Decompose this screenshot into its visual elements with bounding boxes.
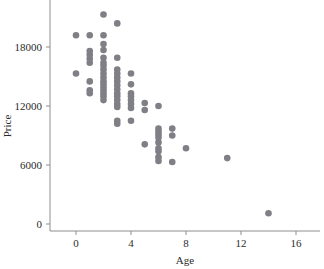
data-point — [86, 59, 93, 66]
data-point — [169, 132, 176, 139]
y-tick-label: 0 — [37, 218, 43, 230]
x-tick-label: 8 — [183, 237, 189, 249]
data-point — [169, 159, 176, 166]
data-point — [183, 145, 190, 152]
data-point — [73, 70, 80, 77]
x-tick-label: 12 — [236, 237, 247, 249]
data-point — [86, 78, 93, 85]
data-point — [265, 210, 272, 217]
data-point — [114, 104, 121, 111]
data-point — [100, 41, 107, 48]
data-point — [141, 100, 148, 107]
x-tick-label: 4 — [128, 237, 134, 249]
data-point — [114, 20, 121, 27]
data-point — [100, 32, 107, 39]
chart-background — [0, 0, 324, 269]
data-point — [114, 120, 121, 127]
data-point — [128, 81, 135, 88]
chart-canvas: 060001200018000 0481216 Price Age — [0, 0, 324, 269]
y-tick-label: 6000 — [20, 159, 43, 171]
data-point — [100, 47, 107, 54]
data-point — [128, 70, 135, 77]
data-point — [100, 97, 107, 104]
data-point — [86, 90, 93, 97]
data-point — [224, 155, 231, 162]
data-point — [155, 158, 162, 165]
data-point — [141, 107, 148, 114]
data-point — [100, 11, 107, 18]
data-point — [73, 32, 80, 39]
x-tick-label: 16 — [291, 237, 303, 249]
y-tick-label: 18000 — [15, 41, 43, 53]
scatter-plot-figure: 060001200018000 0481216 Price Age — [0, 0, 324, 269]
data-point — [128, 105, 135, 112]
y-tick-label: 12000 — [15, 100, 43, 112]
data-point — [155, 103, 162, 110]
data-point — [155, 148, 162, 155]
data-point — [155, 139, 162, 146]
x-tick-label: 0 — [73, 237, 79, 249]
data-point — [114, 55, 121, 62]
y-axis-title: Price — [1, 115, 13, 138]
x-axis-title: Age — [176, 254, 194, 266]
data-point — [141, 141, 148, 148]
data-point — [128, 117, 135, 124]
data-point — [169, 125, 176, 132]
data-point — [86, 32, 93, 39]
